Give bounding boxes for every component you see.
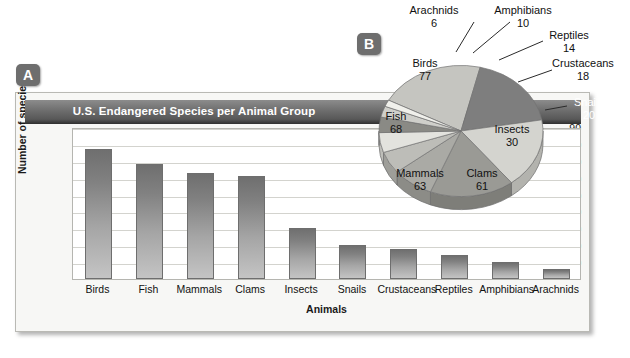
pie-label-reptiles: Reptiles14: [509, 29, 629, 54]
pie-label-value: 18: [523, 70, 630, 83]
x-label-insects: Insects: [276, 283, 327, 295]
pie-label-birds: Birds77: [365, 57, 485, 82]
bar-clams: [238, 176, 265, 279]
pie-label-value: 68: [336, 123, 456, 136]
pie-label-arachnids: Arachnids6: [374, 4, 494, 29]
bar-chart-title-bar: U.S. Endangered Species per Animal Group: [25, 100, 581, 124]
y-axis-title: Number of species: [16, 80, 28, 174]
pie-label-insects: Insects30: [452, 123, 572, 148]
bar-reptiles: [441, 255, 468, 279]
pie-label-value: 20: [529, 109, 630, 122]
bar-snails: [339, 245, 366, 279]
bar-birds: [85, 149, 112, 279]
pie-label-name: Reptiles: [549, 29, 589, 41]
pie-label-name: Crustaceans: [552, 57, 614, 69]
pie-label-name: Clams: [466, 167, 497, 179]
pie-label-name: Amphibians: [494, 4, 551, 16]
bar-fish: [136, 164, 163, 279]
pie-label-name: Birds: [412, 57, 437, 69]
bar-amphibians: [492, 262, 519, 279]
x-label-snails: Snails: [327, 283, 378, 295]
pie-label-name: Snails: [574, 96, 604, 108]
pie-label-value: 61: [422, 180, 542, 193]
pie-label-value: 14: [509, 42, 629, 55]
pie-label-value: 77: [365, 70, 485, 83]
pie-label-clams: Clams61: [422, 167, 542, 192]
pie-label-name: Insects: [495, 123, 530, 135]
pie-label-value: 6: [374, 17, 494, 30]
x-label-amphibians: Amphibians: [479, 283, 530, 295]
bar-chart-plot-wrapper: Number of species 908070605040302010 Bir…: [25, 128, 581, 288]
x-axis-title: Animals: [72, 303, 581, 315]
panel-marker-b: B: [357, 33, 381, 55]
bar-insects: [289, 228, 316, 279]
pie-label-snails: Snails20: [529, 96, 630, 121]
bar-mammals: [187, 173, 214, 279]
x-label-mammals: Mammals: [174, 283, 225, 295]
pie-label-value: 30: [452, 136, 572, 149]
bar-chart-plot-area: [72, 128, 581, 280]
pie-label-fish: Fish68: [336, 110, 456, 135]
pie-label-name: Fish: [386, 110, 407, 122]
x-label-crustaceans: Crustaceans: [377, 283, 428, 295]
x-label-arachnids: Arachnids: [530, 283, 581, 295]
pie-label-crustaceans: Crustaceans18: [523, 57, 630, 82]
bar-chart-title: U.S. Endangered Species per Animal Group: [25, 100, 363, 124]
x-label-fish: Fish: [123, 283, 174, 295]
x-label-reptiles: Reptiles: [428, 283, 479, 295]
x-label-clams: Clams: [225, 283, 276, 295]
panel-marker-a: A: [16, 64, 40, 86]
bar-arachnids: [543, 269, 570, 279]
x-label-birds: Birds: [72, 283, 123, 295]
pie-label-name: Arachnids: [410, 4, 459, 16]
bar-crustaceans: [390, 249, 417, 279]
